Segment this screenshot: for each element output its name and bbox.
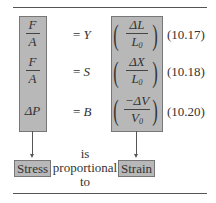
equals-modulus-3: = B (73, 104, 92, 120)
stress-fraction-1: F A (20, 18, 45, 49)
equals-modulus-2: = S (73, 64, 90, 80)
relation-line-1: is (52, 147, 118, 161)
strain-arrow-icon (134, 154, 138, 158)
strain-fraction-3: −ΔV V0 (121, 94, 153, 129)
strain-arrow-line (136, 131, 137, 155)
stress-pressure: ΔP (20, 104, 45, 118)
right-paren: ) (152, 95, 158, 125)
left-paren: ( (113, 95, 119, 125)
left-paren: ( (113, 20, 119, 50)
equals-modulus-1: = Y (73, 27, 91, 43)
stress-label: Stress (14, 160, 51, 177)
youngs-modulus: Y (84, 27, 91, 42)
numerator: F (20, 55, 45, 69)
strain-fraction-2: ΔX L0 (122, 55, 152, 90)
right-paren: ) (152, 20, 158, 50)
right-paren: ) (152, 57, 158, 87)
denominator: A (20, 35, 45, 49)
relation-text: is proportional to (52, 147, 118, 189)
left-paren: ( (113, 57, 119, 87)
relation-line-3: to (52, 175, 118, 189)
numerator: −ΔV (121, 94, 153, 108)
strain-label: Strain (118, 160, 155, 177)
equation-number: (10.17) (167, 27, 205, 43)
denominator: L0 (122, 35, 152, 53)
delta-p: ΔP (20, 104, 45, 118)
top-rule (13, 7, 207, 8)
bulk-modulus: B (84, 104, 92, 119)
stress-fraction-2: F A (20, 55, 45, 86)
relation-line-2: proportional (52, 161, 118, 175)
denominator: L0 (122, 72, 152, 90)
stress-arrow-line (32, 131, 33, 155)
stress-arrow-icon (30, 154, 34, 158)
shear-modulus: S (84, 64, 91, 79)
denominator: V0 (121, 111, 153, 129)
equation-number: (10.18) (167, 64, 205, 80)
denominator: A (20, 72, 45, 86)
numerator: ΔL (122, 18, 152, 32)
numerator: F (20, 18, 45, 32)
equation-number: (10.20) (167, 104, 205, 120)
strain-fraction-1: ΔL L0 (122, 18, 152, 53)
bottom-rule (13, 193, 207, 194)
numerator: ΔX (122, 55, 152, 69)
